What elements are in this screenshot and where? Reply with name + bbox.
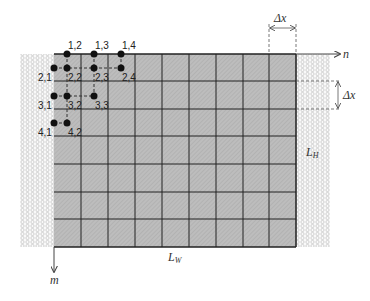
diagram-canvas: n m Δx Δx LH LW 1,2 1,3 1,4 2,1 [0,0,370,301]
top-delta-x-label: Δx [273,11,287,25]
node-label: 1,3 [95,40,109,51]
plate-region [54,54,296,247]
right-delta-x-label: Δx [342,88,356,102]
node-1-4 [118,51,125,58]
node-label: 1,2 [68,40,82,51]
node-label: 3,2 [68,100,82,111]
node-label: 3,3 [95,100,109,111]
node-3-3 [91,93,98,100]
node-3-2 [64,93,71,100]
width-label: LW [167,250,183,265]
node-4-1 [51,120,58,127]
node-2-2 [64,65,71,72]
node-3-1 [51,93,58,100]
top-dimension [269,24,296,54]
n-axis-label: n [343,47,349,61]
node-label: 2,3 [95,72,109,83]
node-1-3 [91,51,98,58]
node-label: 4,2 [68,127,82,138]
node-4-2 [64,120,71,127]
node-label: 3,1 [38,100,52,111]
node-label: 2,2 [68,72,82,83]
m-axis-label: m [50,273,59,287]
node-1-2 [64,51,71,58]
node-label: 2,4 [122,72,136,83]
node-label: 2,1 [38,72,52,83]
node-2-3 [91,65,98,72]
node-2-1 [51,65,58,72]
node-label: 1,4 [122,40,136,51]
node-2-4 [118,65,125,72]
node-label: 4,1 [38,127,52,138]
